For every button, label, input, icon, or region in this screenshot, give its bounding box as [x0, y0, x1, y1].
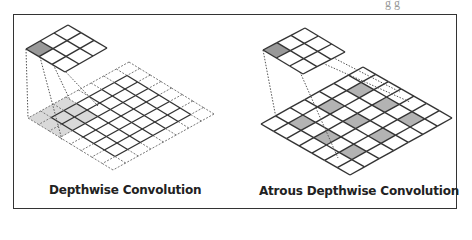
projection-line	[263, 50, 276, 118]
input-feature-map-dilated	[261, 67, 452, 175]
depthwise-caption: Depthwise Convolution	[49, 183, 201, 197]
atrous-depthwise-caption: Atrous Depthwise Convolution	[259, 184, 459, 198]
atrous-depthwise-convolution-illustration	[261, 28, 452, 175]
atrous-kernel	[263, 28, 345, 74]
depthwise-kernel	[26, 25, 107, 72]
projection-line	[26, 49, 28, 118]
depthwise-convolution-illustration	[26, 25, 214, 170]
